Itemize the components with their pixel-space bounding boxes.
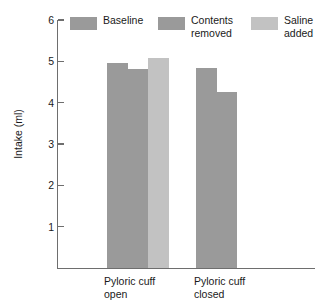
bar-baseline-group-1 [196, 68, 217, 268]
bar-baseline-group-0 [107, 63, 128, 268]
y-tick-label: 1 [32, 222, 54, 233]
y-tick-label: 2 [32, 180, 54, 191]
y-tick-mark [58, 102, 64, 103]
y-tick-mark [58, 185, 64, 186]
y-tick-label: 4 [32, 98, 54, 109]
bar-contents-removed-group-1 [217, 92, 238, 268]
y-tick-label: 6 [32, 15, 54, 26]
bar-chart-figure: Baseline Contents removed Saline added 6… [0, 0, 327, 306]
y-tick-label: 3 [32, 139, 54, 150]
y-axis-title: Intake (ml) [12, 98, 24, 170]
x-tick-label-pyloric-cuff-closed: Pyloric cuff closed [194, 275, 245, 300]
x-tick-label-pyloric-cuff-open: Pyloric cuff open [104, 275, 155, 300]
bar-contents-removed-group-0 [128, 69, 149, 268]
bar-saline-added-group-0 [148, 58, 169, 268]
y-tick-mark [58, 143, 64, 144]
x-axis-line [57, 268, 315, 269]
y-tick-mark [58, 61, 64, 62]
y-tick-label: 5 [32, 56, 54, 67]
y-tick-mark [58, 226, 64, 227]
y-tick-mark [58, 19, 64, 20]
plot-area: 654321 Intake (ml) Pyloric cuff open Pyl… [0, 0, 327, 306]
